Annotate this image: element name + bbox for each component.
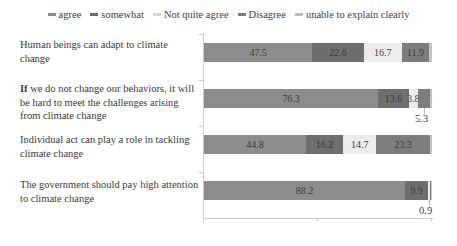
- bar-segment-somewhat[interactable]: 13.6: [378, 89, 409, 108]
- x-tick: [431, 218, 432, 222]
- bar-segment-somewhat[interactable]: 16.2: [306, 135, 343, 154]
- legend-label: somewhat: [101, 9, 144, 20]
- category-label-2: Individual act can play a role in tackli…: [20, 133, 200, 160]
- category-label-lead: If: [20, 83, 28, 94]
- bar-value-label: 23.3: [394, 140, 412, 150]
- bar-segment-not-quite-agree[interactable]: 3.8: [409, 89, 418, 108]
- plot-area: 47.5 22.6 16.7 11.9 76.3 13.6 3.8: [203, 34, 433, 218]
- category-label-1: If we do not change our behaviors, it wi…: [20, 82, 200, 123]
- legend-label: unable to explain clearly: [306, 9, 410, 20]
- category-label-line: Individual act can play a role in tackli…: [20, 134, 189, 145]
- bar-value-label: 47.5: [249, 48, 267, 58]
- y-tick: [199, 34, 203, 35]
- bar-segment-unable-to-explain-clearly[interactable]: [431, 181, 432, 200]
- y-tick: [199, 172, 203, 173]
- bar-segment-not-quite-agree[interactable]: 16.7: [364, 43, 402, 62]
- bar-segment-somewhat[interactable]: 22.6: [312, 43, 364, 62]
- category-label-line: to climate change: [20, 193, 94, 204]
- x-axis-line: [203, 218, 433, 219]
- legend-item-not-quite-agree: Not quite agree: [153, 9, 229, 20]
- category-label-line: we do not change our behaviors, it will: [28, 83, 195, 94]
- category-label-line: Human beings can adapt to climate: [20, 39, 168, 50]
- bar-segment-disagree[interactable]: 23.3: [376, 135, 429, 154]
- bar-value-label: 14.7: [351, 140, 369, 150]
- table-row: 88.2 9.9: [204, 181, 432, 200]
- bar-segment-unable-to-explain-clearly[interactable]: [430, 135, 432, 154]
- bar-value-label: 9.9: [410, 186, 423, 196]
- bar-segment-unable-to-explain-clearly[interactable]: [429, 43, 432, 62]
- legend-label: Disagree: [249, 9, 286, 20]
- category-label-3: The government should pay high attention…: [20, 178, 200, 205]
- category-label-line: climate change: [20, 148, 83, 159]
- category-label-0: Human beings can adapt to climate change: [20, 38, 200, 65]
- bar-value-label: 16.7: [374, 48, 392, 58]
- legend-swatch-icon: [90, 13, 98, 16]
- legend-swatch-icon: [153, 13, 161, 16]
- x-tick: [203, 218, 204, 222]
- table-row: 44.8 16.2 14.7 23.3: [204, 135, 432, 154]
- chart-legend: agree somewhat Not quite agree Disagree …: [0, 6, 457, 22]
- bar-segment-agree[interactable]: 76.3: [204, 89, 378, 108]
- bar-segment-agree[interactable]: 88.2: [204, 181, 405, 200]
- legend-item-agree: agree: [48, 9, 82, 20]
- bar-value-callout: 0.9: [419, 205, 432, 216]
- table-row: 76.3 13.6 3.8: [204, 89, 432, 108]
- bar-value-label: 13.6: [385, 94, 403, 104]
- legend-swatch-icon: [295, 13, 303, 16]
- bar-value-callout: 5.3: [415, 113, 428, 124]
- category-label-line: The government should pay high attention: [20, 179, 198, 190]
- bar-segment-somewhat[interactable]: 9.9: [405, 181, 428, 200]
- legend-item-disagree: Disagree: [238, 9, 286, 20]
- bar-segment-disagree[interactable]: [418, 89, 430, 108]
- category-label-line: change: [20, 53, 50, 64]
- bar-value-label: 44.8: [246, 140, 264, 150]
- legend-swatch-icon: [238, 13, 246, 16]
- legend-swatch-icon: [48, 13, 56, 16]
- bar-segment-not-quite-agree[interactable]: 14.7: [343, 135, 377, 154]
- legend-label: agree: [59, 9, 82, 20]
- legend-label: Not quite agree: [164, 9, 229, 20]
- y-tick: [199, 80, 203, 81]
- bar-segment-disagree[interactable]: 11.9: [402, 43, 429, 62]
- bar-segment-agree[interactable]: 47.5: [204, 43, 312, 62]
- category-label-line: be hard to meet the challenges arising: [20, 97, 179, 108]
- bar-value-label: 22.6: [329, 48, 347, 58]
- bar-segment-unable-to-explain-clearly[interactable]: [430, 89, 432, 108]
- legend-item-somewhat: somewhat: [90, 9, 144, 20]
- legend-item-unable-to-explain-clearly: unable to explain clearly: [295, 9, 410, 20]
- bar-value-label: 76.3: [282, 94, 300, 104]
- bar-value-label: 16.2: [316, 140, 334, 150]
- bar-segment-agree[interactable]: 44.8: [204, 135, 306, 154]
- bar-value-label: 88.2: [296, 186, 314, 196]
- table-row: 47.5 22.6 16.7 11.9: [204, 43, 432, 62]
- y-tick: [199, 126, 203, 127]
- bar-value-label: 11.9: [407, 48, 424, 58]
- category-label-line: from climate change: [20, 110, 106, 121]
- x-tick: [317, 218, 318, 222]
- stacked-bar-chart: agree somewhat Not quite agree Disagree …: [0, 0, 457, 246]
